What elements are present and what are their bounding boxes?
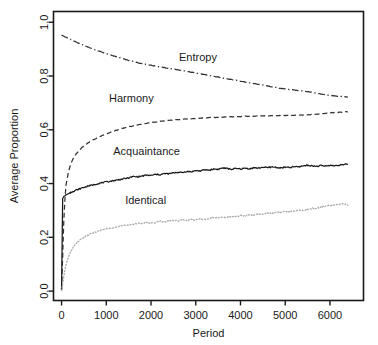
x-axis-title: Period xyxy=(193,327,225,339)
y-tick-label: 1.0 xyxy=(39,15,51,30)
series-label-entropy: Entropy xyxy=(179,51,217,63)
x-tick-label: 3000 xyxy=(184,309,208,321)
x-tick-label: 6000 xyxy=(318,309,342,321)
series-label-acquaintance: Acquaintance xyxy=(113,145,180,157)
x-tick-label: 2000 xyxy=(139,309,163,321)
x-tick-label: 0 xyxy=(58,309,64,321)
x-tick-label: 4000 xyxy=(228,309,252,321)
line-chart: 01000200030004000500060000.00.20.40.60.8… xyxy=(0,0,378,345)
series-label-harmony: Harmony xyxy=(109,92,154,104)
y-tick-label: 0.6 xyxy=(39,122,51,137)
y-tick-label: 0.8 xyxy=(39,68,51,83)
chart-root: 01000200030004000500060000.00.20.40.60.8… xyxy=(0,0,378,345)
x-tick-label: 5000 xyxy=(273,309,297,321)
y-tick-label: 0.4 xyxy=(39,176,51,191)
y-tick-label: 0.2 xyxy=(39,230,51,245)
x-tick-label: 1000 xyxy=(94,309,118,321)
series-label-identical: Identical xyxy=(125,194,166,206)
y-axis-title: Average Proportion xyxy=(8,109,20,204)
y-tick-label: 0.0 xyxy=(39,283,51,298)
